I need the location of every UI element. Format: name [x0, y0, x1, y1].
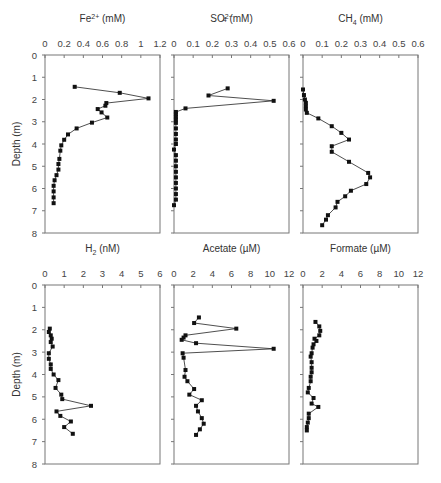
- data-point-marker: [147, 96, 151, 100]
- data-point-marker: [316, 405, 320, 409]
- data-point-marker: [196, 409, 200, 413]
- y-tick-label: 2: [32, 94, 37, 105]
- x-tick-label: 12: [284, 268, 295, 279]
- x-tick-label: 0.1: [316, 38, 329, 49]
- data-point-marker: [174, 121, 178, 125]
- data-point-marker: [320, 223, 324, 227]
- x-tick-label: 1.2: [153, 38, 166, 49]
- data-point-marker: [364, 182, 368, 186]
- data-point-marker: [53, 178, 57, 182]
- data-point-marker: [302, 93, 306, 97]
- panel-title: H2 (nM): [85, 243, 119, 256]
- data-point-marker: [59, 143, 63, 147]
- panel-5: Acetate (µM)024681012: [171, 243, 294, 464]
- data-point-marker: [58, 149, 62, 153]
- data-point-marker: [330, 150, 334, 154]
- data-point-marker: [368, 175, 372, 179]
- y-tick-label: 5: [32, 391, 37, 402]
- plot-frame: [303, 285, 418, 464]
- x-tick-label: 0.5: [392, 38, 405, 49]
- data-point-marker: [49, 340, 53, 344]
- x-tick-label: 2: [81, 268, 86, 279]
- x-tick-label: 0.3: [225, 38, 238, 49]
- data-point-marker: [200, 416, 204, 420]
- data-point-marker: [309, 375, 313, 379]
- data-point-marker: [234, 327, 238, 331]
- x-tick-label: 1: [138, 38, 143, 49]
- data-point-marker: [174, 159, 178, 163]
- data-point-marker: [184, 106, 188, 110]
- data-point-marker: [347, 138, 351, 142]
- data-point-marker: [202, 422, 206, 426]
- data-point-marker: [330, 144, 334, 148]
- x-tick-label: 0.2: [206, 38, 219, 49]
- data-point-marker: [172, 148, 176, 152]
- data-point-marker: [73, 85, 77, 89]
- data-point-marker: [313, 320, 317, 324]
- data-point-marker: [306, 390, 310, 394]
- data-point-marker: [194, 341, 198, 345]
- data-point-marker: [174, 175, 178, 179]
- y-tick-label: 4: [32, 369, 37, 380]
- data-point-marker: [174, 153, 178, 157]
- y-tick-label: 7: [32, 205, 37, 216]
- data-point-marker: [305, 111, 309, 115]
- x-tick-label: 0.4: [244, 38, 257, 49]
- data-point-marker: [312, 396, 316, 400]
- x-tick-label: 0.3: [354, 38, 367, 49]
- data-point-marker: [174, 170, 178, 174]
- data-series-line: [49, 329, 91, 434]
- data-point-marker: [49, 367, 53, 371]
- data-point-marker: [55, 173, 59, 177]
- y-tick-label: 8: [32, 228, 37, 239]
- x-tick-label: 0.4: [77, 38, 90, 49]
- data-point-marker: [309, 379, 313, 383]
- data-series-line: [54, 87, 149, 203]
- data-point-marker: [174, 132, 178, 136]
- x-tick-label: 10: [265, 268, 276, 279]
- panel-3: CH4 (mM)00.10.20.30.40.50.6: [300, 13, 425, 233]
- x-tick-label: 2: [191, 268, 196, 279]
- data-point-marker: [301, 87, 305, 91]
- y-tick-label: 8: [32, 459, 37, 470]
- y-axis-label: Depth (m): [11, 122, 22, 166]
- data-series-line: [182, 317, 274, 435]
- data-point-marker: [324, 218, 328, 222]
- data-point-marker: [183, 375, 187, 379]
- data-point-marker: [326, 213, 330, 217]
- data-point-marker: [52, 184, 56, 188]
- data-point-marker: [59, 393, 63, 397]
- data-point-marker: [52, 201, 56, 205]
- data-point-marker: [192, 321, 196, 325]
- y-tick-label: 0: [32, 280, 37, 291]
- y-tick-label: 3: [32, 116, 37, 127]
- data-point-marker: [310, 360, 314, 364]
- data-point-marker: [54, 386, 58, 390]
- y-tick-label: 4: [32, 139, 37, 150]
- data-point-marker: [62, 138, 66, 142]
- panel-title: Formate (µM): [330, 243, 391, 254]
- data-point-marker: [307, 412, 311, 416]
- panel-title: SO2−4 (mM): [210, 13, 252, 25]
- data-point-marker: [187, 393, 191, 397]
- data-point-marker: [317, 333, 321, 337]
- data-point-marker: [174, 192, 178, 196]
- plot-frame: [174, 285, 289, 464]
- panel-title: CH4 (mM): [338, 13, 382, 26]
- x-tick-label: 4: [339, 268, 344, 279]
- data-point-marker: [310, 366, 314, 370]
- y-tick-label: 1: [32, 302, 37, 313]
- data-point-marker: [52, 373, 56, 377]
- x-tick-label: 0.8: [115, 38, 128, 49]
- data-point-marker: [311, 346, 315, 350]
- y-tick-label: 5: [32, 161, 37, 172]
- data-point-marker: [306, 421, 310, 425]
- data-point-marker: [174, 142, 178, 146]
- y-tick-label: 7: [32, 436, 37, 447]
- data-point-marker: [62, 425, 66, 429]
- x-tick-label: 0.2: [335, 38, 348, 49]
- y-tick-label: 2: [32, 324, 37, 335]
- data-point-marker: [58, 414, 62, 418]
- data-point-marker: [100, 110, 104, 114]
- data-point-marker: [52, 195, 56, 199]
